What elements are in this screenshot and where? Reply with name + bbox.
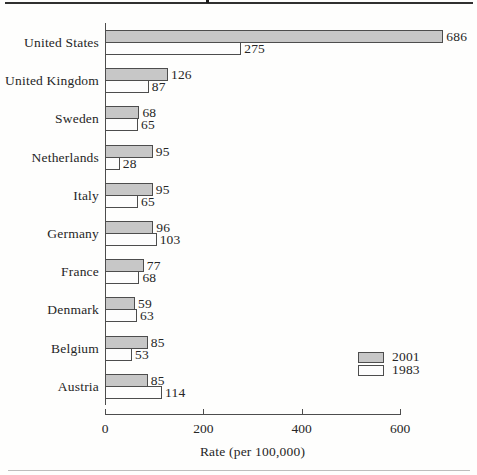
category-label: United States bbox=[0, 34, 99, 51]
bar-1983 bbox=[105, 195, 138, 208]
legend-swatch-2001 bbox=[358, 352, 384, 363]
bar-1983 bbox=[105, 271, 139, 284]
x-axis-tick bbox=[302, 409, 303, 414]
category-label: United Kingdom bbox=[0, 72, 99, 89]
x-axis-tick bbox=[203, 409, 204, 414]
value-label: 126 bbox=[171, 67, 192, 82]
category-label: Denmark bbox=[0, 301, 99, 318]
category-label: Austria bbox=[0, 378, 99, 395]
bar-1983 bbox=[105, 118, 138, 131]
x-axis-tick-label: 400 bbox=[280, 421, 324, 436]
value-label: 686 bbox=[446, 29, 467, 44]
bar-1983 bbox=[105, 309, 137, 322]
category-label: France bbox=[0, 263, 99, 280]
x-axis-tick-label: 200 bbox=[181, 421, 225, 436]
value-label: 95 bbox=[156, 144, 170, 159]
x-axis-tick-label: 600 bbox=[378, 421, 422, 436]
value-label: 95 bbox=[156, 182, 170, 197]
category-label: Belgium bbox=[0, 340, 99, 357]
bar-1983 bbox=[105, 157, 120, 170]
x-axis-title: Rate (per 100,000) bbox=[130, 444, 375, 460]
value-label: 275 bbox=[244, 41, 265, 56]
value-label: 114 bbox=[165, 385, 185, 400]
category-label: Netherlands bbox=[0, 149, 99, 166]
legend-swatch-1983 bbox=[358, 365, 384, 376]
bar-1983 bbox=[105, 386, 162, 399]
scanned-book-page: 0200400600United States686275United King… bbox=[0, 0, 477, 475]
category-label: Italy bbox=[0, 187, 99, 204]
bar-1983 bbox=[105, 42, 241, 55]
value-label: 65 bbox=[141, 117, 155, 132]
bar-1983 bbox=[105, 348, 132, 361]
x-axis-tick bbox=[400, 409, 401, 414]
bottom-rule bbox=[8, 470, 470, 471]
x-axis-tick bbox=[105, 409, 106, 414]
value-label: 28 bbox=[123, 156, 137, 171]
bar-1983 bbox=[105, 233, 157, 246]
incarceration-rate-bar-chart: 0200400600United States686275United King… bbox=[0, 0, 477, 475]
value-label: 65 bbox=[141, 194, 155, 209]
value-label: 68 bbox=[142, 270, 156, 285]
value-label: 85 bbox=[151, 335, 165, 350]
legend: 2001 1983 bbox=[358, 352, 468, 378]
x-axis-line bbox=[105, 414, 401, 415]
category-label: Sweden bbox=[0, 110, 99, 127]
category-label: Germany bbox=[0, 225, 99, 242]
x-axis-tick-label: 0 bbox=[83, 421, 127, 436]
value-label: 63 bbox=[140, 308, 154, 323]
value-label: 87 bbox=[152, 79, 166, 94]
value-label: 53 bbox=[135, 347, 149, 362]
legend-label-1983: 1983 bbox=[392, 363, 420, 377]
bar-1983 bbox=[105, 80, 149, 93]
value-label: 103 bbox=[160, 232, 181, 247]
